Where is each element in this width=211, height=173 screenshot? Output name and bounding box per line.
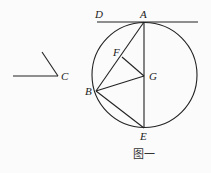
point-label-B: B bbox=[85, 85, 92, 97]
point-label-E: E bbox=[139, 130, 147, 142]
chord-BE bbox=[96, 91, 144, 128]
point-label-A: A bbox=[139, 8, 147, 20]
point-label-G: G bbox=[149, 70, 157, 82]
chord-AB bbox=[96, 22, 144, 91]
figure-caption: 图一 bbox=[133, 148, 155, 161]
point-label-C: C bbox=[61, 70, 69, 82]
point-label-D: D bbox=[94, 8, 103, 20]
geometry-figure: ABCDEFG图一 bbox=[0, 0, 211, 173]
angle-C-slanted-ray bbox=[42, 52, 58, 76]
point-label-F: F bbox=[112, 46, 120, 58]
segment-FG bbox=[122, 57, 144, 76]
figure-canvas: ABCDEFG图一 bbox=[0, 0, 211, 173]
segment-BG bbox=[96, 76, 144, 91]
